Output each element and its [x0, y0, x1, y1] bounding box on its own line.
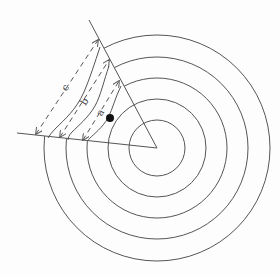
diagram-canvas: cba — [0, 0, 280, 276]
arrow-label-a: a — [94, 107, 107, 118]
concentric-circles-diagram: cba — [0, 0, 280, 276]
point-marker — [106, 114, 114, 122]
arrow-label-c: c — [59, 82, 71, 93]
arrow-labels: cba — [59, 82, 106, 118]
black-dot-marker — [106, 114, 114, 122]
wavy-wavefronts — [48, 47, 121, 141]
dashed-arrows — [36, 40, 119, 140]
